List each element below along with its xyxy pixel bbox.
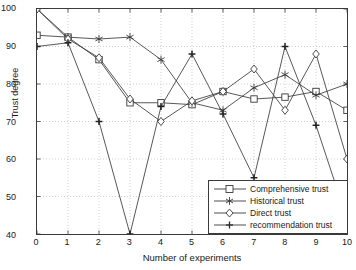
x-tick-3-wrap: 3 [116, 238, 142, 247]
y-tick-40: 40 [0, 231, 16, 240]
x-tick-5: 5 [189, 237, 194, 247]
x-tick-0-wrap: 0 [23, 238, 49, 247]
legend-sample-square-icon [213, 183, 247, 195]
y-axis-label: Trust degree [10, 53, 20, 133]
x-tick-10-wrap: 10 [334, 238, 356, 247]
y-tick-90: 90 [0, 42, 16, 51]
x-tick-4: 4 [158, 237, 163, 247]
x-tick-9-wrap: 9 [303, 238, 329, 247]
x-tick-2-wrap: 2 [85, 238, 111, 247]
legend-sample-star-icon [213, 195, 247, 207]
legend-item-historical-trust[interactable]: Historical trust [209, 195, 347, 207]
x-tick-1-wrap: 1 [54, 238, 80, 247]
y-tick-50-wrap: 50 [0, 193, 16, 202]
y-tick-90-wrap: 90 [0, 42, 16, 51]
y-tick-60-wrap: 60 [0, 155, 16, 164]
y-axis-tick-labels: 100 [0, 4, 16, 13]
x-tick-5-wrap: 5 [179, 238, 205, 247]
legend-item-direct-trust[interactable]: Direct trust [209, 207, 347, 219]
x-tick-8: 8 [282, 237, 287, 247]
legend-label-recommendation-trust: recommendation trust [247, 219, 332, 231]
y-tick-100: 100 [0, 4, 16, 13]
legend-item-recommendation-trust[interactable]: recommendation trust [209, 219, 347, 231]
x-tick-4-wrap: 4 [147, 238, 173, 247]
x-tick-10: 10 [342, 237, 352, 247]
legend-item-comprehensive-trust[interactable]: Comprehensive trust [209, 183, 347, 195]
legend-sample-diamond-icon [213, 207, 247, 219]
x-tick-7: 7 [251, 237, 256, 247]
x-tick-6-wrap: 6 [210, 238, 236, 247]
x-tick-1: 1 [65, 237, 70, 247]
chart-legend: Comprehensive trust Historical trust Dir… [208, 180, 348, 234]
x-axis-label: Number of experiments [36, 252, 348, 263]
y-tick-60: 60 [0, 155, 16, 164]
x-tick-3: 3 [127, 237, 132, 247]
y-tick-40-wrap: 40 [0, 231, 16, 240]
y-tick-50: 50 [0, 193, 16, 202]
x-tick-0: 0 [33, 237, 38, 247]
x-tick-2: 2 [96, 237, 101, 247]
x-tick-9: 9 [313, 237, 318, 247]
legend-label-comprehensive-trust: Comprehensive trust [247, 183, 328, 195]
x-tick-6: 6 [220, 237, 225, 247]
x-tick-8-wrap: 8 [272, 238, 298, 247]
trust-degree-line-chart: 100 90 80 70 60 50 40 Trust degree 0 1 2… [0, 0, 356, 270]
x-tick-7-wrap: 7 [241, 238, 267, 247]
legend-label-historical-trust: Historical trust [247, 195, 304, 207]
legend-sample-plus-icon [213, 219, 247, 231]
legend-label-direct-trust: Direct trust [247, 207, 291, 219]
